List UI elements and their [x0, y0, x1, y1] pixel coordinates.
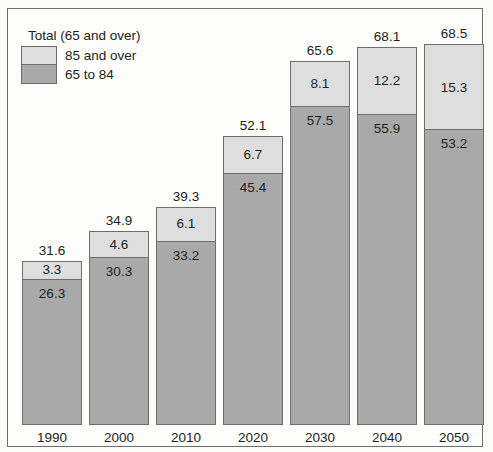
- bar-2010[interactable]: 6.133.2: [156, 207, 216, 425]
- bar-segment-85-and-over[interactable]: 12.2: [357, 47, 417, 115]
- bar-total-label-2020: 52.1: [223, 119, 283, 133]
- bar-segment-85-and-over[interactable]: 8.1: [290, 61, 350, 106]
- segment-value-label: 53.2: [425, 137, 483, 151]
- bar-segment-65-to-84[interactable]: 33.2: [156, 241, 216, 425]
- x-axis-tick-2010: 2010: [156, 431, 216, 445]
- segment-value-label: 12.2: [374, 74, 400, 88]
- segment-value-label: 33.2: [157, 249, 215, 263]
- bar-segment-65-to-84[interactable]: 57.5: [290, 106, 350, 425]
- segment-value-label: 6.7: [244, 148, 263, 162]
- chart-container: Total (65 and over) 85 and over 65 to 84…: [0, 0, 493, 452]
- bar-1990[interactable]: 3.326.3: [22, 261, 82, 425]
- bar-total-label-2000: 34.9: [89, 214, 149, 228]
- x-axis-tick-2020: 2020: [223, 431, 283, 445]
- bar-total-label-2030: 65.6: [290, 44, 350, 58]
- bar-2040[interactable]: 12.255.9: [357, 47, 417, 425]
- bar-segment-85-and-over[interactable]: 6.1: [156, 207, 216, 241]
- segment-value-label: 26.3: [23, 287, 81, 301]
- segment-value-label: 4.6: [110, 238, 129, 252]
- segment-value-label: 55.9: [358, 122, 416, 136]
- segment-value-label: 30.3: [90, 265, 148, 279]
- bar-total-label-1990: 31.6: [22, 244, 82, 258]
- bar-segment-65-to-84[interactable]: 55.9: [357, 114, 417, 425]
- bar-2030[interactable]: 8.157.5: [290, 61, 350, 425]
- bar-segment-85-and-over[interactable]: 4.6: [89, 231, 149, 257]
- segment-value-label: 8.1: [311, 77, 330, 91]
- bar-total-label-2050: 68.5: [424, 27, 484, 41]
- segment-value-label: 45.4: [224, 181, 282, 195]
- bar-2020[interactable]: 6.745.4: [223, 136, 283, 425]
- segment-value-label: 15.3: [441, 81, 467, 95]
- segment-value-label: 3.3: [43, 263, 62, 277]
- bar-segment-85-and-over[interactable]: 6.7: [223, 136, 283, 173]
- bar-segment-65-to-84[interactable]: 45.4: [223, 173, 283, 425]
- bar-segment-65-to-84[interactable]: 53.2: [424, 129, 484, 425]
- bar-segment-85-and-over[interactable]: 3.3: [22, 261, 82, 279]
- x-axis-tick-2040: 2040: [357, 431, 417, 445]
- bar-2000[interactable]: 4.630.3: [89, 231, 149, 425]
- bar-2050[interactable]: 15.353.2: [424, 44, 484, 425]
- bar-segment-65-to-84[interactable]: 30.3: [89, 257, 149, 425]
- bar-total-label-2010: 39.3: [156, 190, 216, 204]
- x-axis-tick-2030: 2030: [290, 431, 350, 445]
- bar-segment-85-and-over[interactable]: 15.3: [424, 44, 484, 129]
- x-axis-tick-2000: 2000: [89, 431, 149, 445]
- bar-total-label-2040: 68.1: [357, 30, 417, 44]
- plot-area: 3.326.331.619904.630.334.920006.133.239.…: [0, 0, 493, 452]
- bar-segment-65-to-84[interactable]: 26.3: [22, 279, 82, 425]
- x-axis-tick-1990: 1990: [22, 431, 82, 445]
- segment-value-label: 6.1: [177, 217, 196, 231]
- x-axis-tick-2050: 2050: [424, 431, 484, 445]
- segment-value-label: 57.5: [291, 114, 349, 128]
